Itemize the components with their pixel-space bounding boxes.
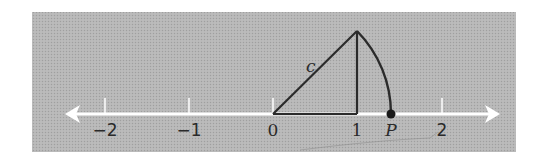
tick-label-1: 1 bbox=[352, 120, 363, 140]
tick-label-0: 0 bbox=[268, 120, 279, 140]
point-p-label: P bbox=[384, 120, 397, 140]
tick-label-neg1: −1 bbox=[176, 120, 201, 140]
point-p-marker bbox=[387, 110, 396, 119]
number-line-diagram: −2 −1 0 1 2 c P bbox=[0, 0, 546, 162]
tick-label-2: 2 bbox=[437, 120, 448, 140]
tick-label-neg2: −2 bbox=[92, 120, 117, 140]
hypotenuse-label: c bbox=[306, 56, 316, 76]
